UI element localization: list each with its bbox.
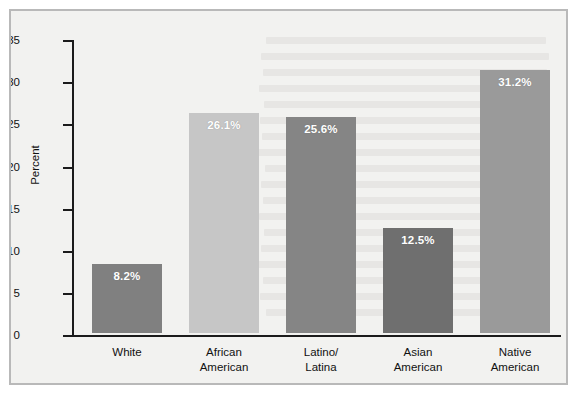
bar-native-american[interactable]: 31.2% (480, 70, 550, 333)
x-axis-line (72, 335, 561, 337)
y-axis-title: Percent (29, 125, 41, 205)
y-tick-label: 15 (9, 204, 20, 215)
bar-value-label: 31.2% (480, 76, 550, 88)
y-tick-label: 30 (9, 77, 20, 88)
y-tick-mark (63, 251, 73, 253)
y-tick-label: 0 (9, 330, 20, 341)
x-category-label-african-american: African American (184, 345, 264, 374)
y-tick-mark (63, 293, 73, 295)
plot-area: 35 30 25 20 15 10 5 0 Percent 8.2% 26.1%… (11, 11, 566, 383)
bar-latino-latina[interactable]: 25.6% (286, 117, 356, 333)
y-axis-line (72, 40, 74, 335)
y-tick-mark (63, 167, 73, 169)
y-tick-mark (63, 209, 73, 211)
y-tick-mark (63, 40, 73, 42)
x-category-label-white: White (87, 345, 167, 360)
y-tick-label: 10 (9, 246, 20, 257)
y-tick-label: 25 (9, 119, 20, 130)
figure-container: 35 30 25 20 15 10 5 0 Percent 8.2% 26.1%… (0, 0, 588, 402)
bar-value-label: 12.5% (383, 234, 453, 246)
bar-value-label: 8.2% (92, 270, 162, 282)
bar-african-american[interactable]: 26.1% (189, 113, 259, 333)
chart-plate: 35 30 25 20 15 10 5 0 Percent 8.2% 26.1%… (9, 9, 568, 385)
bar-value-label: 25.6% (286, 123, 356, 135)
x-category-label-native-american: Native American (475, 345, 555, 374)
y-tick-mark (63, 124, 73, 126)
y-tick-mark (63, 82, 73, 84)
y-tick-label: 5 (9, 288, 20, 299)
y-tick-mark (63, 335, 73, 337)
x-category-label-latino-latina: Latino/ Latina (281, 345, 361, 374)
bar-value-label: 26.1% (189, 119, 259, 131)
bar-asian-american[interactable]: 12.5% (383, 228, 453, 333)
y-tick-label: 35 (9, 35, 20, 46)
y-tick-label: 20 (9, 162, 20, 173)
x-category-label-asian-american: Asian American (378, 345, 458, 374)
bar-white[interactable]: 8.2% (92, 264, 162, 333)
